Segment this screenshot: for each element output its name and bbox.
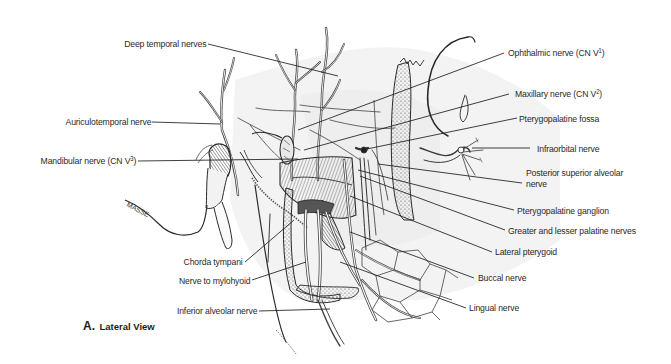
- masseter-inscription: MASSE: [126, 201, 151, 219]
- mandible-body: [276, 285, 359, 354]
- label-pterygopalatine-fossa: Pterygopalatine fossa: [519, 113, 599, 124]
- caption-text: Lateral View: [99, 321, 154, 332]
- label-maxillary-nerve: Maxillary nerve (CN V2): [515, 88, 602, 99]
- label-posterior-superior-alveolar-nerve: Posterior superior alveolar nerve: [526, 167, 623, 189]
- label-greater-lesser-palatine-nerves: Greater and lesser palatine nerves: [508, 225, 636, 236]
- anatomy-figure: MASSE: [0, 0, 671, 364]
- label-auriculotemporal-nerve: Auriculotemporal nerve: [65, 116, 151, 127]
- label-mandibular-nerve: Mandibular nerve (CN V3): [40, 155, 136, 166]
- label-infraorbital-nerve: Infraorbital nerve: [537, 143, 599, 154]
- label-inferior-alveolar-nerve: Inferior alveolar nerve: [177, 305, 257, 316]
- leader-auriculotemporal: [152, 122, 220, 124]
- label-deep-temporal-nerves: Deep temporal nerves: [124, 38, 206, 49]
- figure-caption: A. Lateral View: [83, 316, 155, 334]
- label-nerve-to-mylohyoid: Nerve to mylohyoid: [179, 275, 250, 286]
- leader-inferior-alveolar: [259, 309, 330, 311]
- label-pterygopalatine-ganglion: Pterygopalatine ganglion: [517, 205, 609, 216]
- label-lateral-pterygoid: Lateral pterygoid: [495, 246, 557, 257]
- label-lingual-nerve: Lingual nerve: [469, 302, 519, 313]
- label-buccal-nerve: Buccal nerve: [478, 272, 526, 283]
- caption-letter: A.: [83, 319, 95, 333]
- label-ophthalmic-nerve: Ophthalmic nerve (CN V1): [508, 47, 604, 58]
- label-chorda-tympani: Chorda tympani: [184, 256, 243, 267]
